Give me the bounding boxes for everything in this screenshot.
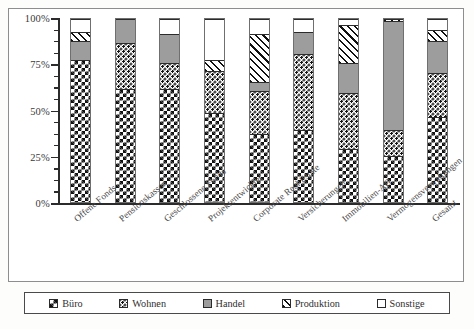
y-axis-tick-label: 100% bbox=[25, 13, 50, 24]
bar-segment-sonstige bbox=[160, 19, 179, 34]
bar-8[interactable] bbox=[383, 18, 404, 203]
y-axis-tick-label: 50% bbox=[30, 105, 50, 116]
bar-segment-handel bbox=[250, 82, 269, 91]
legend-item-handel[interactable]: Handel bbox=[203, 298, 245, 309]
legend-swatch-icon bbox=[282, 299, 291, 308]
bar-segment-handel bbox=[160, 34, 179, 64]
bar-segment-wohnen bbox=[116, 43, 135, 89]
bar-segment-wohnen bbox=[160, 63, 179, 89]
bar-segment-handel bbox=[71, 41, 90, 60]
y-axis: 0%25%50%75%100% bbox=[8, 8, 64, 282]
legend-swatch-icon bbox=[119, 299, 128, 308]
bar-segment-produktion bbox=[339, 25, 358, 64]
legend-label: Wohnen bbox=[132, 298, 166, 309]
bar-segment-produktion bbox=[384, 19, 403, 21]
legend-item-wohnen[interactable]: Wohnen bbox=[119, 298, 166, 309]
y-axis-tick-label: 0% bbox=[36, 198, 50, 209]
bar-segment-sonstige bbox=[205, 19, 224, 60]
bar-segment-sonstige bbox=[294, 19, 313, 32]
bar-segment-wohnen bbox=[384, 130, 403, 156]
chart-figure: 0%25%50%75%100% Offene FondsPensionskass… bbox=[0, 0, 474, 329]
bar-segment-sonstige bbox=[339, 19, 358, 25]
bar-segment-sonstige bbox=[428, 19, 447, 30]
chart-legend: BüroWohnenHandelProduktionSonstige bbox=[24, 292, 450, 314]
legend-label: Büro bbox=[62, 298, 82, 309]
legend-label: Produktion bbox=[295, 298, 340, 309]
y-axis-tick-label: 75% bbox=[30, 59, 50, 70]
bar-segment-wohnen bbox=[428, 73, 447, 117]
legend-item-sonstige[interactable]: Sonstige bbox=[377, 298, 425, 309]
legend-item-produktion[interactable]: Produktion bbox=[282, 298, 340, 309]
legend-swatch-icon bbox=[203, 299, 212, 308]
bar-segment-produktion bbox=[71, 32, 90, 41]
bar-segment-wohnen bbox=[205, 71, 224, 114]
bar-segment-produktion bbox=[428, 30, 447, 41]
legend-swatch-icon bbox=[377, 299, 386, 308]
bar-3[interactable] bbox=[159, 18, 180, 203]
bar-segment-wohnen bbox=[294, 54, 313, 130]
bar-segment-bro bbox=[71, 60, 90, 203]
bar-segment-handel bbox=[339, 63, 358, 93]
legend-label: Sonstige bbox=[390, 298, 425, 309]
bar-segment-wohnen bbox=[250, 91, 269, 134]
bar-segment-bro bbox=[339, 149, 358, 204]
legend-swatch-icon bbox=[49, 299, 58, 308]
bar-segment-handel bbox=[116, 19, 135, 43]
bar-segment-handel bbox=[428, 41, 447, 72]
bar-segment-handel bbox=[384, 21, 403, 130]
bar-segment-bro bbox=[116, 89, 135, 203]
bar-7[interactable] bbox=[338, 18, 359, 203]
bar-1[interactable] bbox=[70, 18, 91, 203]
y-axis-tick-label: 25% bbox=[30, 151, 50, 162]
bar-2[interactable] bbox=[115, 18, 136, 203]
bar-segment-bro bbox=[250, 134, 269, 203]
bar-segment-wohnen bbox=[339, 93, 358, 149]
plot-area bbox=[58, 8, 460, 282]
bar-segment-sonstige bbox=[250, 19, 269, 34]
legend-item-bro[interactable]: Büro bbox=[49, 298, 82, 309]
bar-segment-handel bbox=[294, 32, 313, 54]
bar-segment-produktion bbox=[250, 34, 269, 82]
bar-segment-sonstige bbox=[71, 19, 90, 32]
legend-label: Handel bbox=[216, 298, 245, 309]
bar-segment-produktion bbox=[205, 60, 224, 71]
